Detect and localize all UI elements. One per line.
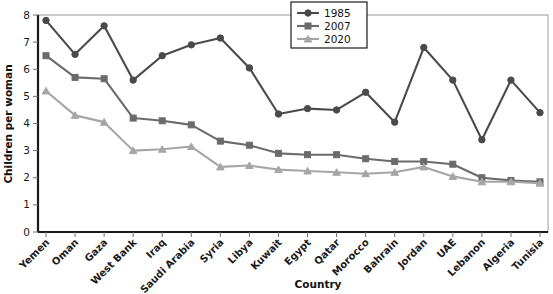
data-point-1985-Lebanon [479,137,485,143]
y-axis-tick-labels: 012345678 [23,9,30,238]
data-point-2020-Yemen [42,87,50,94]
data-point-1985-Qatar [333,107,339,113]
x-tick-label: Algeria [480,237,516,273]
x-tick-label: Iraq [144,237,168,261]
data-point-2007-West Bank [130,115,136,121]
x-tick-label: Oman [50,237,81,268]
y-tick-label: 2 [23,171,30,183]
data-point-1985-Egypt [304,105,310,111]
y-tick-label: 7 [23,36,30,48]
y-tick-label: 3 [23,144,30,156]
x-axis-title: Country [295,278,342,290]
chart-canvas: 012345678 YemenOmanGazaWest BankIraqSaud… [0,0,553,294]
x-tick-label: Tunisia [510,237,546,273]
data-point-1985-Oman [72,51,78,57]
data-point-1985-Jordan [421,44,427,50]
y-tick-label: 1 [23,198,30,210]
x-tick-label: Kuwait [249,236,284,271]
data-point-2007-Qatar [334,152,340,158]
data-point-1985-UAE [450,77,456,83]
data-point-1985-Algeria [508,77,514,83]
legend-marker-1985 [305,10,311,16]
x-tick-label: Yemen [16,237,51,272]
data-point-2007-Libya [246,142,252,148]
y-tick-label: 0 [23,226,30,238]
data-point-2007-Oman [72,74,78,80]
y-tick-label: 6 [23,63,30,75]
data-point-1985-Iraq [159,52,165,58]
x-tick-label: Syria [198,237,226,265]
chart-legend: 198520072020 [291,2,367,48]
x-tick-label: Saudi Arabia [138,237,197,294]
y-tick-label: 4 [23,117,30,129]
y-tick-label: 5 [23,90,30,102]
data-point-1985-Gaza [101,23,107,29]
data-point-1985-West Bank [130,77,136,83]
data-point-2007-Gaza [101,76,107,82]
data-point-1985-Bahrain [392,119,398,125]
data-point-2007-Egypt [305,152,311,158]
legend-marker-2007 [305,23,311,29]
x-tick-label: Egypt [282,236,313,267]
data-point-2007-UAE [450,161,456,167]
x-tick-label: UAE [435,237,459,261]
data-point-2007-Bahrain [392,158,398,164]
data-point-2007-Iraq [159,118,165,124]
data-point-2007-Yemen [43,53,49,59]
x-tick-label: Jordan [395,237,429,271]
fertility-line-chart: 012345678 YemenOmanGazaWest BankIraqSaud… [0,0,553,294]
data-point-2007-Kuwait [275,150,281,156]
data-point-1985-Yemen [43,17,49,23]
data-point-2007-Morocco [363,156,369,162]
data-point-1985-Kuwait [275,111,281,117]
data-point-1985-Tunisia [537,109,543,115]
series-2007 [43,53,543,185]
data-point-1985-Syria [217,35,223,41]
legend-label-1985: 1985 [324,7,351,19]
y-axis-title: Children per woman [2,64,14,183]
data-point-1985-Libya [246,65,252,71]
x-tick-label: Gaza [82,237,109,264]
data-point-1985-Saudi Arabia [188,42,194,48]
data-point-1985-Morocco [362,89,368,95]
legend-label-2007: 2007 [324,20,351,32]
y-tick-label: 8 [23,9,30,21]
x-axis-tick-labels: YemenOmanGazaWest BankIraqSaudi ArabiaSy… [16,236,545,294]
legend-label-2020: 2020 [324,33,351,45]
series-line-2007 [46,56,540,182]
data-point-2007-Syria [217,138,223,144]
data-point-2007-Saudi Arabia [188,122,194,128]
